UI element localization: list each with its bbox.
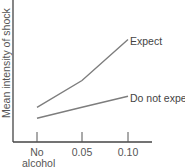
line-chart xyxy=(0,0,185,168)
y-axis-label: Mean intensity of shock xyxy=(0,18,12,118)
series-label-do-not-expect: Do not expect xyxy=(130,92,185,104)
series-line-expect xyxy=(37,39,128,107)
x-tick-label-0.05: 0.05 xyxy=(67,147,97,158)
series-label-expect: Expect xyxy=(130,35,162,47)
x-tick-label-0.10: 0.10 xyxy=(113,147,143,158)
x-tick-label-no-alcohol: No alcohol xyxy=(22,147,52,168)
